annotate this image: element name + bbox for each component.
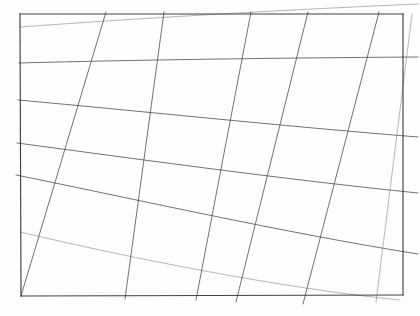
grid-line-a2 (19, 57, 418, 63)
perspective-grid-figure (0, 0, 420, 316)
left-edge (20, 14, 21, 296)
grid-line-b1 (21, 12, 106, 296)
frame-border (20, 14, 403, 296)
grid-line-b2 (125, 12, 164, 299)
grid-line-a6 (20, 232, 400, 300)
perspective-grid-canvas (0, 0, 420, 316)
grid-line-family-b (21, 12, 412, 304)
grid-line-a1 (20, 4, 418, 27)
grid-line-family-a (16, 4, 418, 300)
grid-line-b3 (196, 12, 251, 300)
grid-line-b5 (303, 12, 379, 304)
bottom-edge (21, 295, 403, 296)
grid-line-b4 (236, 12, 308, 302)
